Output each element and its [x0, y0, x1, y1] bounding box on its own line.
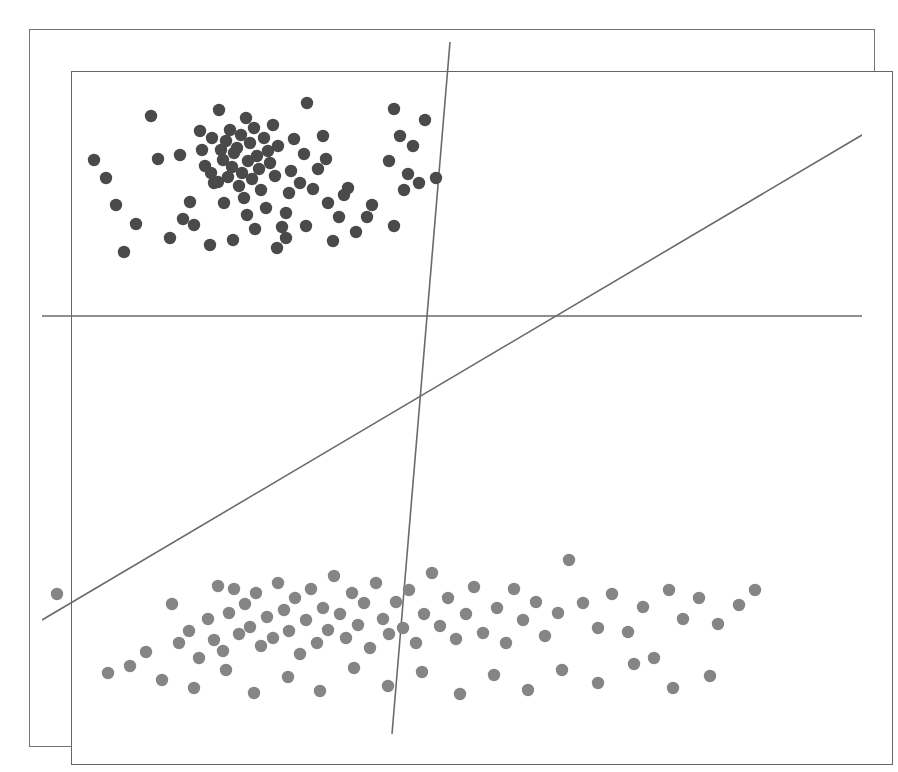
- data-point: [244, 137, 256, 149]
- data-point: [233, 628, 245, 640]
- data-point: [348, 662, 360, 674]
- data-point: [204, 239, 216, 251]
- data-point: [248, 687, 260, 699]
- data-point: [468, 581, 480, 593]
- data-point: [294, 177, 306, 189]
- data-point: [663, 584, 675, 596]
- data-point: [530, 596, 542, 608]
- data-point: [188, 219, 200, 231]
- data-point: [592, 677, 604, 689]
- data-point: [246, 173, 258, 185]
- data-point: [434, 620, 446, 632]
- data-point: [346, 587, 358, 599]
- data-point: [188, 682, 200, 694]
- data-point: [416, 666, 428, 678]
- data-point: [177, 213, 189, 225]
- data-point: [426, 567, 438, 579]
- data-point: [202, 613, 214, 625]
- data-point: [278, 604, 290, 616]
- data-point: [301, 97, 313, 109]
- data-point: [622, 626, 634, 638]
- data-point: [491, 602, 503, 614]
- data-point: [294, 648, 306, 660]
- data-point: [288, 133, 300, 145]
- data-point: [244, 621, 256, 633]
- data-point: [403, 584, 415, 596]
- data-points-group: [51, 97, 761, 700]
- data-point: [130, 218, 142, 230]
- data-point: [712, 618, 724, 630]
- data-point: [563, 554, 575, 566]
- data-point: [390, 596, 402, 608]
- data-point: [280, 232, 292, 244]
- data-point: [500, 637, 512, 649]
- data-point: [271, 242, 283, 254]
- data-point: [250, 587, 262, 599]
- data-point: [88, 154, 100, 166]
- data-point: [552, 607, 564, 619]
- data-point: [361, 211, 373, 223]
- data-point: [241, 209, 253, 221]
- data-point: [174, 149, 186, 161]
- data-point: [450, 633, 462, 645]
- data-point: [677, 613, 689, 625]
- data-point: [383, 628, 395, 640]
- data-point: [253, 163, 265, 175]
- data-point: [272, 577, 284, 589]
- scatter-plot-canvas: [42, 42, 862, 734]
- data-point: [110, 199, 122, 211]
- data-point: [413, 177, 425, 189]
- data-point: [124, 660, 136, 672]
- data-point: [317, 602, 329, 614]
- data-point: [394, 130, 406, 142]
- data-point: [517, 614, 529, 626]
- data-point: [311, 637, 323, 649]
- data-point: [314, 685, 326, 697]
- data-point: [282, 671, 294, 683]
- data-point: [377, 613, 389, 625]
- data-point: [388, 220, 400, 232]
- data-point: [539, 630, 551, 642]
- data-point: [251, 150, 263, 162]
- data-point: [410, 637, 422, 649]
- data-point: [100, 172, 112, 184]
- data-point: [342, 182, 354, 194]
- data-point: [402, 168, 414, 180]
- data-point: [261, 611, 273, 623]
- data-point: [398, 184, 410, 196]
- data-point: [418, 608, 430, 620]
- data-point: [166, 598, 178, 610]
- data-point: [488, 669, 500, 681]
- data-point: [733, 599, 745, 611]
- data-point: [340, 632, 352, 644]
- data-point: [249, 223, 261, 235]
- data-point: [267, 119, 279, 131]
- data-point: [224, 124, 236, 136]
- data-point: [364, 642, 376, 654]
- data-point: [508, 583, 520, 595]
- data-point: [556, 664, 568, 676]
- data-point: [350, 226, 362, 238]
- data-point: [693, 592, 705, 604]
- diagonal-separator: [42, 135, 862, 620]
- data-point: [704, 670, 716, 682]
- data-point: [276, 221, 288, 233]
- data-point: [322, 624, 334, 636]
- data-point: [227, 234, 239, 246]
- scatter-plot-figure: [0, 0, 898, 772]
- data-point: [238, 192, 250, 204]
- data-point: [285, 165, 297, 177]
- data-point: [196, 144, 208, 156]
- data-point: [228, 583, 240, 595]
- data-point: [305, 583, 317, 595]
- data-point: [194, 125, 206, 137]
- data-point: [208, 634, 220, 646]
- data-point: [183, 625, 195, 637]
- data-point: [231, 142, 243, 154]
- data-point: [208, 177, 220, 189]
- data-point: [164, 232, 176, 244]
- data-point: [140, 646, 152, 658]
- decision-boundaries-group: [42, 42, 862, 734]
- data-point: [370, 577, 382, 589]
- data-point: [218, 197, 230, 209]
